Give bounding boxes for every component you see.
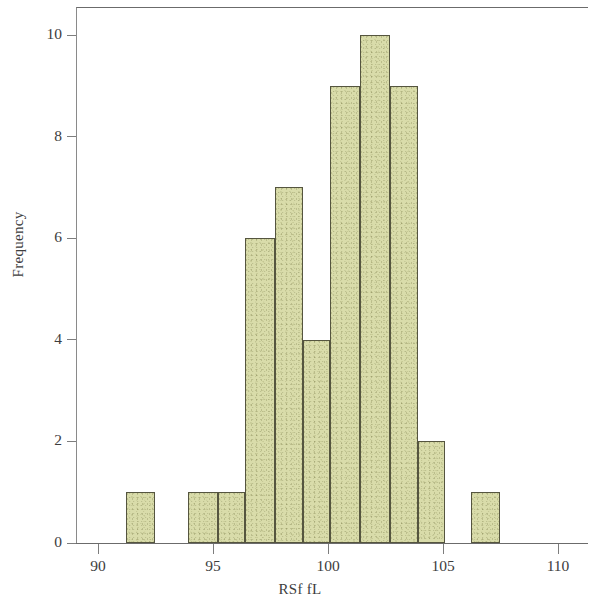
y-tick-label-6: 6 (0, 228, 62, 246)
x-tick-label-105: 105 (413, 557, 473, 575)
histogram-bar (188, 492, 218, 543)
y-tick-6 (67, 238, 76, 239)
histogram-bar (330, 86, 360, 543)
x-tick-90 (98, 544, 99, 554)
y-tick-label-10: 10 (0, 25, 62, 43)
y-tick-10 (67, 35, 76, 36)
x-tick-label-110: 110 (528, 557, 588, 575)
histogram-bar (245, 238, 275, 543)
x-tick-105 (443, 544, 444, 554)
histogram-bar (418, 441, 446, 543)
x-axis-title: RSf fL (0, 581, 592, 598)
histogram-bar (303, 340, 331, 543)
x-tick-95 (213, 544, 214, 554)
y-tick-0 (67, 543, 76, 544)
histogram-bar (218, 492, 246, 543)
histogram-bar (390, 86, 418, 543)
x-tick-label-100: 100 (298, 557, 358, 575)
histogram-bar (471, 492, 501, 543)
y-tick-label-4: 4 (0, 330, 62, 348)
y-tick-2 (67, 441, 76, 442)
x-axis-line (76, 543, 588, 544)
y-tick-label-8: 8 (0, 127, 62, 145)
x-tick-100 (328, 544, 329, 554)
histogram-bar (275, 187, 303, 543)
y-tick-label-2: 2 (0, 431, 62, 449)
x-tick-label-90: 90 (68, 557, 128, 575)
y-tick-8 (67, 136, 76, 137)
histogram-bar (126, 492, 156, 543)
x-tick-110 (558, 544, 559, 554)
y-tick-4 (67, 339, 76, 340)
y-tick-label-0: 0 (0, 533, 62, 551)
histogram-bar (360, 35, 390, 543)
x-tick-label-95: 95 (183, 557, 243, 575)
